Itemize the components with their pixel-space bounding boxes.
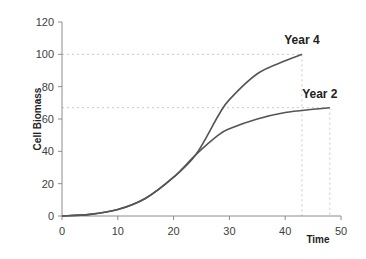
x-axis-title: Time	[306, 234, 330, 245]
series-labels: Year 4Year 2	[284, 33, 338, 100]
series-line-year-4	[62, 54, 302, 216]
y-tick-label: 60	[42, 113, 54, 125]
x-ticks: 01020304050	[59, 216, 347, 237]
series-label-year-4: Year 4	[284, 33, 320, 47]
x-tick-label: 10	[112, 225, 124, 237]
y-tick-label: 40	[42, 145, 54, 157]
axes	[62, 22, 341, 216]
y-tick-label: 80	[42, 81, 54, 93]
x-tick-label: 30	[223, 225, 235, 237]
y-tick-label: 0	[48, 210, 54, 222]
dashed-guides	[62, 54, 330, 216]
y-axis-title: Cell Biomass	[32, 87, 43, 150]
x-tick-label: 20	[167, 225, 179, 237]
series-lines	[62, 54, 330, 216]
y-tick-label: 120	[36, 16, 54, 28]
series-line-year-2	[62, 108, 330, 216]
series-label-year-2: Year 2	[302, 87, 338, 101]
growth-chart: 020406080100120 01020304050 Year 4Year 2…	[0, 0, 366, 259]
x-tick-label: 0	[59, 225, 65, 237]
y-tick-label: 100	[36, 48, 54, 60]
y-tick-label: 20	[42, 178, 54, 190]
x-tick-label: 50	[335, 225, 347, 237]
x-tick-label: 40	[279, 225, 291, 237]
